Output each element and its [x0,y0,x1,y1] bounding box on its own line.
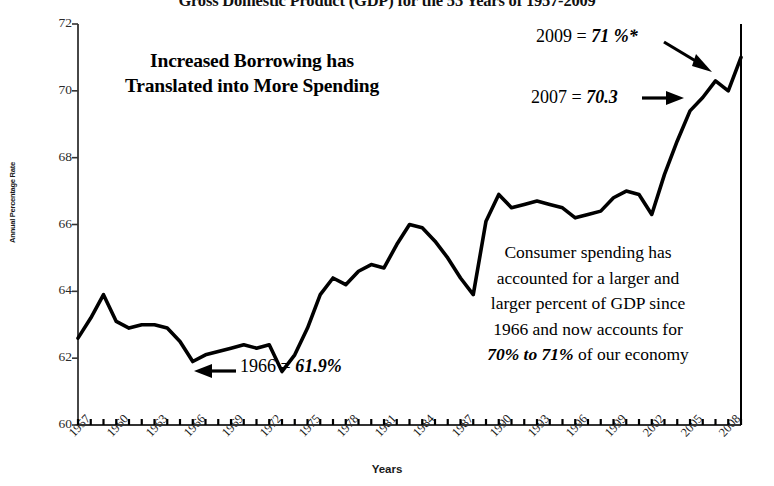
paragraph-line-5-bold: 70% to 71% [487,344,574,364]
annotation-2007-label: 2007 = [531,87,586,107]
annotation-1966: 1966 = 61.9% [240,356,342,377]
chart-canvas: Gross Domestic Product (GDP) for the 53 … [0,0,774,486]
annotation-2007: 2007 = 70.3 [531,87,618,108]
annotation-1966-value: 61.9% [295,356,342,376]
arrow-2009 [664,42,712,72]
paragraph-line-4: 1966 and now accounts for [438,317,738,343]
paragraph-line-5-rest: of our economy [574,344,689,364]
annotation-2009: 2009 = 71 %* [536,26,638,47]
annotation-headline: Increased Borrowing has Translated into … [118,48,386,98]
arrow-1966 [194,364,236,378]
paragraph-line-2: accounted for a larger and [438,266,738,292]
annotation-2009-value: 71 %* [591,26,638,46]
arrow-2007 [642,91,684,105]
paragraph-line-1: Consumer spending has [438,240,738,266]
annotation-2007-value: 70.3 [586,87,618,107]
annotation-2009-label: 2009 = [536,26,591,46]
annotation-paragraph: Consumer spending has accounted for a la… [438,240,738,368]
paragraph-line-5: 70% to 71% of our economy [438,342,738,368]
paragraph-line-3: larger percent of GDP since [438,291,738,317]
annotation-1966-label: 1966 = [240,356,295,376]
